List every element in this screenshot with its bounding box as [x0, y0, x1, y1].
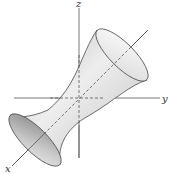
y-axis-label: y [161, 93, 168, 104]
hyperboloid-diagram: z y x [0, 0, 169, 174]
z-axis-label: z [75, 0, 82, 9]
x-axis-label: x [5, 163, 11, 174]
